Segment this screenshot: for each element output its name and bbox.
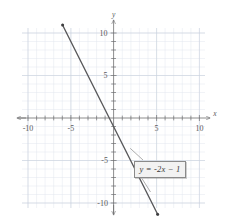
line-segment (62, 25, 158, 216)
equation-label-box: y = -2x − 1 (134, 161, 186, 178)
x-tick-label-5: 5 (155, 124, 159, 133)
graph-figure: -10 -5 5 10 10 5 -5 -10 x y y = -2x − 1 (0, 0, 225, 218)
x-tick-label-neg5: -5 (68, 124, 75, 133)
y-axis-label: y (111, 10, 116, 19)
line-series-y-equals-neg2x-minus-1 (61, 24, 159, 216)
line-endpoint-upper-marker (61, 24, 64, 27)
y-tick-label-neg10: -10 (97, 199, 108, 208)
y-tick-label-neg5: -5 (101, 156, 108, 165)
y-tick-label-10: 10 (100, 29, 108, 38)
x-tick-label-neg10: -10 (23, 124, 34, 133)
coordinate-plane-svg: -10 -5 5 10 10 5 -5 -10 x y (0, 0, 225, 218)
x-tick-label-10: 10 (195, 124, 203, 133)
line-endpoint-lower-marker (156, 213, 159, 216)
x-axis-label: x (212, 109, 217, 118)
leader-line-upper (130, 148, 143, 160)
y-tick-label-5: 5 (104, 71, 108, 80)
